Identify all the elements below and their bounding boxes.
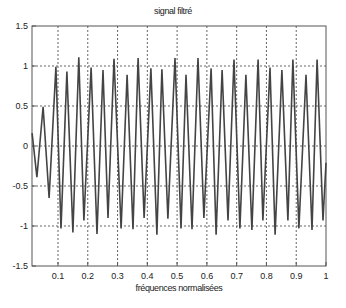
x-tick-label: 0.4 bbox=[141, 271, 154, 281]
x-tick-label: 0.1 bbox=[52, 271, 65, 281]
x-tick-label: 0.6 bbox=[201, 271, 214, 281]
y-tick-label: -1.5 bbox=[12, 261, 28, 271]
y-tick-label: 0.5 bbox=[15, 101, 28, 111]
x-tick-label: 0.2 bbox=[82, 271, 95, 281]
x-axis-label: fréquences normalisées bbox=[32, 283, 326, 293]
x-tick-label: 0.8 bbox=[260, 271, 273, 281]
chart-plot: 0.10.20.30.40.50.60.70.80.911.510.50-0.5… bbox=[0, 0, 346, 308]
y-tick-label: 0 bbox=[23, 141, 28, 151]
x-tick-label: 0.7 bbox=[230, 271, 243, 281]
y-tick-label: -1 bbox=[20, 221, 28, 231]
x-tick-label: 0.3 bbox=[111, 271, 124, 281]
y-tick-label: 1 bbox=[23, 61, 28, 71]
y-tick-label: 1.5 bbox=[15, 21, 28, 31]
x-tick-label: 0.5 bbox=[171, 271, 184, 281]
x-tick-label: 1 bbox=[323, 271, 328, 281]
y-tick-label: -0.5 bbox=[12, 181, 28, 191]
x-tick-label: 0.9 bbox=[290, 271, 303, 281]
